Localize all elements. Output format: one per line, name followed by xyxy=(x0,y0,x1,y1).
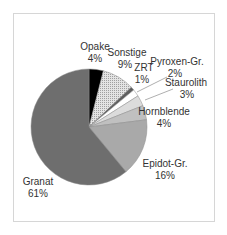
label-opake-name: Opake xyxy=(80,41,110,52)
label-hornblende-name: Hornblende xyxy=(138,106,190,117)
label-granat-name: Granat xyxy=(23,176,54,187)
label-opake-pct: 4% xyxy=(88,53,103,64)
pie-slices xyxy=(31,69,147,185)
pie-chart: Opake 4% Sonstige 9% ZRT 1% Pyroxen-Gr. … xyxy=(0,0,227,235)
label-hornblende-pct: 4% xyxy=(157,118,172,129)
leader-line-staurolith xyxy=(145,89,173,100)
label-pyroxen-name: Pyroxen-Gr. xyxy=(150,56,203,67)
label-staurolith-name: Staurolith xyxy=(165,77,207,88)
label-zrt-pct: 1% xyxy=(135,74,150,85)
label-epidot-pct: 16% xyxy=(155,170,175,181)
label-sonstige-pct: 9% xyxy=(118,59,133,70)
label-epidot-name: Epidot-Gr. xyxy=(142,158,187,169)
label-staurolith-pct: 3% xyxy=(180,89,195,100)
label-granat-pct: 61% xyxy=(28,188,48,199)
label-sonstige-name: Sonstige xyxy=(108,47,147,58)
